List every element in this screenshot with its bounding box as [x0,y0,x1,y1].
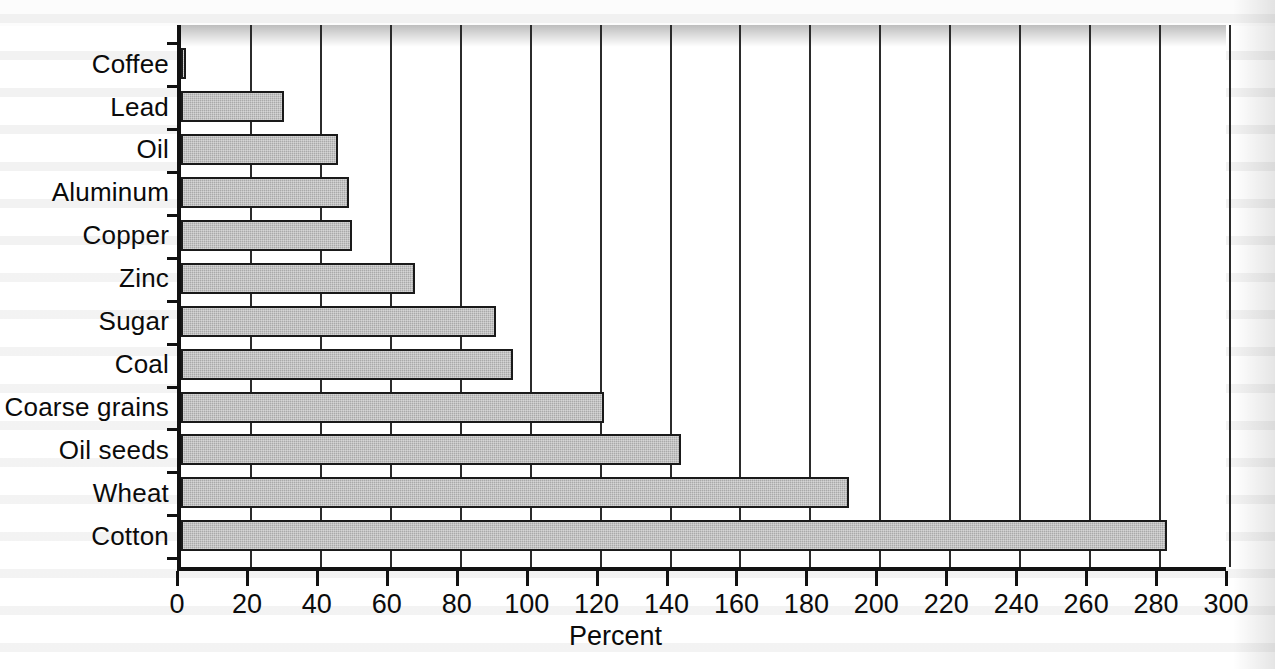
x-axis-tick [1225,571,1228,586]
bar [181,392,604,423]
bar [181,134,338,165]
y-axis-category-label: Aluminum [0,177,169,207]
bars-layer [181,25,1226,567]
bar-row [181,47,1226,81]
x-axis-tick [735,571,738,586]
bar-row [181,175,1226,209]
x-axis-tick [805,571,808,586]
x-axis-tick-label: 40 [302,589,332,619]
y-axis-tick [167,471,181,474]
x-axis-tick [1085,571,1088,586]
x-axis-tick [596,571,599,586]
x-axis-tick [945,571,948,586]
bar-row [181,304,1226,338]
bar [181,48,186,79]
x-axis-tick-label: 100 [504,589,549,619]
x-axis-title: Percent [0,620,1275,652]
x-axis-tick [1155,571,1158,586]
x-axis-tick-label: 60 [372,589,402,619]
x-axis-tick-label: 80 [442,589,472,619]
y-axis-category-label: Oil seeds [0,435,169,465]
bar-row [181,132,1226,166]
x-axis-tick [666,571,669,586]
x-axis-tick-label: 260 [1064,589,1109,619]
x-axis-tick [386,571,389,586]
bar [181,91,284,122]
y-axis-tick [167,428,181,431]
x-axis-tick-label: 220 [924,589,969,619]
bar [181,220,352,251]
bar-row [181,476,1226,510]
x-axis-title-label: Percent [569,621,662,651]
y-axis-tick [167,214,181,217]
x-axis-tick-label: 160 [714,589,759,619]
x-axis-tick-label: 180 [784,589,829,619]
bar-row [181,218,1226,252]
x-axis-tick [246,571,249,586]
y-axis-tick [167,300,181,303]
bar [181,306,496,337]
y-axis-tick [167,514,181,517]
y-axis-category-label: Wheat [0,478,169,508]
y-axis-category-label: Zinc [0,263,169,293]
bar-row [181,433,1226,467]
y-axis-category-label: Lead [0,92,169,122]
y-axis-tick [167,386,181,389]
x-axis-tick-label: 120 [574,589,619,619]
bar-row [181,261,1226,295]
x-axis-tick-label: 280 [1134,589,1179,619]
horizontal-bar-chart: CoffeeLeadOilAluminumCopperZincSugarCoal… [0,0,1275,669]
y-axis-category-label: Coffee [0,49,169,79]
bar-row [181,90,1226,124]
bar [181,434,681,465]
x-axis-tick [316,571,319,586]
x-axis-tick-label: 240 [994,589,1039,619]
bar [181,520,1167,551]
bar-row [181,347,1226,381]
x-axis-tick-label: 0 [169,589,184,619]
x-axis-tick [526,571,529,586]
y-axis-tick [167,85,181,88]
x-axis-tick [456,571,459,586]
bar [181,263,415,294]
bar [181,349,513,380]
y-axis-category-label: Copper [0,220,169,250]
bar-row [181,519,1226,553]
x-axis-tick [1015,571,1018,586]
y-axis-tick [167,557,181,560]
y-axis-category-label: Coal [0,349,169,379]
y-axis-tick [167,128,181,131]
x-axis-tick-label: 200 [854,589,899,619]
gridline [1229,25,1231,567]
x-axis-tick-label: 140 [644,589,689,619]
y-axis-tick [167,257,181,260]
y-axis-tick [167,42,181,45]
y-axis-category-label: Cotton [0,521,169,551]
x-axis-tick [875,571,878,586]
bar [181,477,849,508]
bar-row [181,390,1226,424]
y-axis-category-label: Sugar [0,306,169,336]
plot-area [177,25,1226,571]
y-axis-tick [167,171,181,174]
page-edge-shadow [1233,0,1275,669]
x-axis-tick-label: 300 [1203,589,1248,619]
y-axis-category-label: Coarse grains [0,392,169,422]
y-axis-tick [167,343,181,346]
bar [181,177,349,208]
y-axis-category-label: Oil [0,134,169,164]
x-axis-tick [176,571,179,586]
x-axis-tick-label: 20 [232,589,262,619]
